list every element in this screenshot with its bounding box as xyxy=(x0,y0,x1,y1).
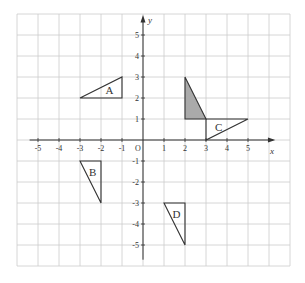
triangle-label-d: D xyxy=(173,208,181,220)
origin-label: O xyxy=(135,144,141,153)
y-tick-label: -1 xyxy=(132,157,139,166)
y-axis-arrow-icon xyxy=(141,15,146,22)
x-tick-label: -2 xyxy=(98,144,105,153)
x-tick-label: -3 xyxy=(77,144,84,153)
y-tick-label: 4 xyxy=(135,52,139,61)
x-axis-label: x xyxy=(269,146,274,156)
x-tick-label: 3 xyxy=(204,144,208,153)
triangle-label-a: A xyxy=(105,84,113,96)
x-tick-label: 5 xyxy=(246,144,250,153)
x-tick-label: -1 xyxy=(119,144,126,153)
x-tick-label: 2 xyxy=(183,144,187,153)
y-tick-label: -4 xyxy=(132,220,139,229)
triangle-label-c: C xyxy=(215,121,222,133)
axes xyxy=(30,15,276,260)
x-axis-arrow-icon xyxy=(268,138,275,143)
y-tick-label: 3 xyxy=(135,73,139,82)
y-axis-label: y xyxy=(147,15,152,25)
y-tick-label: 2 xyxy=(135,94,139,103)
x-tick-label: -5 xyxy=(35,144,42,153)
y-tick-label: 1 xyxy=(135,115,139,124)
triangle-label-b: B xyxy=(89,166,96,178)
coordinate-grid: -5-4-3-2-11234554321-1-2-3-4-5 ABCD x y … xyxy=(0,0,305,283)
x-tick-label: -4 xyxy=(56,144,63,153)
y-tick-label: -2 xyxy=(132,178,139,187)
x-tick-label: 1 xyxy=(162,144,166,153)
y-tick-label: -3 xyxy=(132,199,139,208)
y-tick-label: 5 xyxy=(135,31,139,40)
x-tick-label: 4 xyxy=(225,144,229,153)
y-tick-label: -5 xyxy=(132,241,139,250)
